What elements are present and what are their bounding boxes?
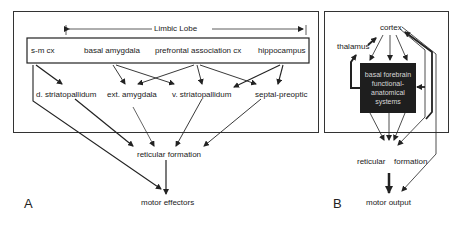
node-d-striatopallidum: d. striatopallidum: [36, 91, 96, 99]
box-line-2: functional-: [372, 79, 404, 88]
node-motor-output: motor output: [366, 199, 411, 207]
node-motor-effectors: motor effectors: [141, 199, 194, 207]
node-reticular-formation: reticular formation: [137, 151, 201, 159]
node-basal-amygdala: basal amygdala: [84, 47, 140, 55]
node-formation-right: formation: [394, 158, 427, 166]
node-hippocampus: hippocampus: [258, 47, 306, 55]
limbic-lobe-label: Limbic Lobe: [154, 25, 197, 33]
node-reticular-left: reticular: [357, 158, 385, 166]
box-line-3: anatomical: [371, 88, 405, 97]
panel-a-letter: A: [24, 197, 33, 210]
box-line-4: systems: [375, 97, 401, 106]
node-thalamus: thalamus: [337, 43, 369, 51]
basal-forebrain-box: basal forebrain functional- anatomical s…: [360, 63, 416, 113]
node-v-striatopallidum: v. striatopallidum: [172, 91, 231, 99]
node-cortex: cortex: [380, 24, 402, 32]
box-line-1: basal forebrain: [365, 70, 411, 79]
node-ext-amygdala: ext. amygdala: [107, 91, 157, 99]
node-sm-cx: s-m cx: [31, 47, 55, 55]
node-prefrontal-association-cx: prefrontal association cx: [155, 47, 241, 55]
panel-b-letter: B: [333, 197, 342, 210]
node-septal-preoptic: septal-preoptic: [255, 91, 307, 99]
